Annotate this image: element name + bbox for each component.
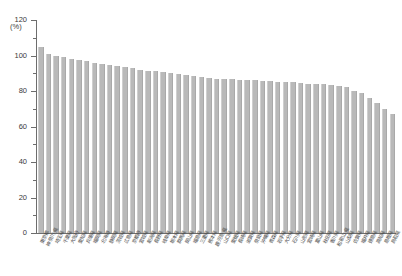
x-label-slot: 静岡県 xyxy=(106,234,114,276)
y-tick-major xyxy=(31,127,36,128)
bar xyxy=(336,86,342,233)
y-tick-label: 40 xyxy=(3,157,27,166)
bar-slot xyxy=(335,20,343,233)
bar-slot xyxy=(144,20,152,233)
bar-slot xyxy=(175,20,183,233)
bar-slot xyxy=(182,20,190,233)
bar xyxy=(92,63,98,233)
bar-slot xyxy=(320,20,328,233)
bar xyxy=(107,65,113,233)
x-label-slot: 長崎県 xyxy=(236,234,244,276)
x-label-slot: 群馬県 xyxy=(175,234,183,276)
bar xyxy=(46,54,52,233)
bar xyxy=(344,87,350,233)
bar xyxy=(275,82,281,233)
y-tick-major xyxy=(31,198,36,199)
x-label-slot: 山梨県 xyxy=(343,234,351,276)
bar-slot xyxy=(343,20,351,233)
bar-slot xyxy=(113,20,121,233)
bar-slot xyxy=(366,20,374,233)
x-label-slot: 沖縄県 xyxy=(259,234,267,276)
bar xyxy=(145,71,151,233)
bar-slot xyxy=(236,20,244,233)
bar xyxy=(38,47,44,233)
bar xyxy=(290,82,296,233)
bar xyxy=(237,80,243,233)
bar-slot xyxy=(358,20,366,233)
x-label-slot: 石川県 xyxy=(289,234,297,276)
bar-slot xyxy=(167,20,175,233)
x-label-slot: 神奈川県 xyxy=(45,234,53,276)
bar xyxy=(130,68,136,233)
bar xyxy=(374,103,380,233)
y-tick-major xyxy=(31,56,36,57)
bar xyxy=(260,81,266,233)
bar-slot xyxy=(266,20,274,233)
bar-slot xyxy=(159,20,167,233)
x-label-slot: 兵庫県 xyxy=(83,234,91,276)
x-label-slot: 和歌山県 xyxy=(335,234,343,276)
x-label-slot: 京都府 xyxy=(129,234,137,276)
bar-slot xyxy=(297,20,305,233)
bar xyxy=(328,85,334,233)
x-label-slot: 山口県 xyxy=(220,234,228,276)
x-label-slot: 三重県 xyxy=(197,234,205,276)
x-label-slot: 福島県 xyxy=(190,234,198,276)
x-label-slot: 宮城県 xyxy=(136,234,144,276)
bar xyxy=(351,91,357,233)
bar xyxy=(214,79,220,233)
bar-slot xyxy=(251,20,259,233)
x-label-slot: 宮崎県 xyxy=(304,234,312,276)
x-label-slot: 滋賀県 xyxy=(243,234,251,276)
bar-slot xyxy=(259,20,267,233)
bar xyxy=(153,71,159,233)
bar xyxy=(69,59,75,233)
bar-slot xyxy=(205,20,213,233)
bar-slot xyxy=(327,20,335,233)
bar-slot xyxy=(45,20,53,233)
bar-slot xyxy=(106,20,114,233)
x-label-slot: 茨城県 xyxy=(113,234,121,276)
x-label-slot: 千葉県 xyxy=(60,234,68,276)
bar-slot xyxy=(381,20,389,233)
bar xyxy=(137,70,143,233)
bar-slot xyxy=(282,20,290,233)
bar xyxy=(390,114,396,233)
bar xyxy=(99,64,105,233)
x-label-slot: 東京都 xyxy=(37,234,45,276)
bar-slot xyxy=(37,20,45,233)
bar xyxy=(267,81,273,233)
x-label-slot: 高知県 xyxy=(373,234,381,276)
x-label-slot: 岡山県 xyxy=(182,234,190,276)
x-label-slot: 北海道 xyxy=(98,234,106,276)
bar-slot xyxy=(129,20,137,233)
x-label-slot: 栃木県 xyxy=(167,234,175,276)
bar xyxy=(367,98,373,233)
bar-slot xyxy=(60,20,68,233)
bar-slot xyxy=(90,20,98,233)
x-label-slot: 山形県 xyxy=(297,234,305,276)
y-tick-major xyxy=(31,20,36,21)
bar xyxy=(114,66,120,233)
bar xyxy=(305,84,311,233)
y-tick-label: 100 xyxy=(3,51,27,60)
bar xyxy=(160,72,166,233)
bar-slot xyxy=(98,20,106,233)
bar-slot xyxy=(136,20,144,233)
bar-slot xyxy=(388,20,396,233)
x-label-slot: 広島県 xyxy=(121,234,129,276)
x-label-slot: 熊本県 xyxy=(205,234,213,276)
bar-slot xyxy=(52,20,60,233)
x-label-slot: 長野県 xyxy=(152,234,160,276)
bar-slot xyxy=(289,20,297,233)
bar-slot xyxy=(68,20,76,233)
y-tick-minor xyxy=(33,180,36,181)
x-label-slot: 愛知県 xyxy=(75,234,83,276)
x-label-slot: 鹿児島県 xyxy=(213,234,221,276)
x-label-slot: 奈良県 xyxy=(251,234,259,276)
x-label-slot: 岐阜県 xyxy=(159,234,167,276)
bar xyxy=(321,84,327,233)
y-tick-label: 0 xyxy=(3,228,27,237)
bar xyxy=(122,67,128,233)
bar xyxy=(199,77,205,233)
